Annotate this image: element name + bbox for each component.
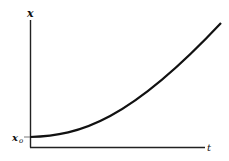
x0-label: x	[11, 132, 19, 143]
curve-x-of-t	[30, 23, 221, 137]
x0-subscript: o	[19, 137, 23, 145]
chart: x t x o	[0, 0, 229, 161]
x-axis-label: t	[207, 142, 212, 153]
y-axis-label: x	[26, 7, 34, 20]
